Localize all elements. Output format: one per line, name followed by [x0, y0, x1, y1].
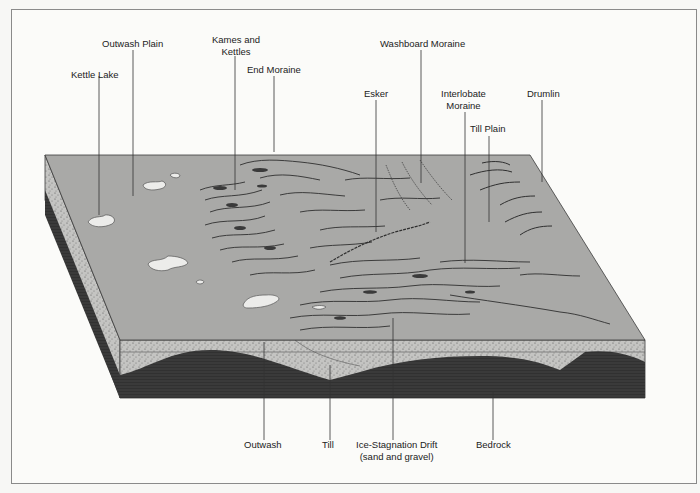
label-drift-line2: (sand and gravel): [356, 451, 437, 463]
label-outwash: Outwash: [244, 439, 282, 451]
label-kames-line1: Kames and: [212, 34, 260, 46]
label-till-plain: Till Plain: [470, 123, 506, 135]
front-face: [120, 340, 645, 398]
label-esker: Esker: [364, 88, 388, 100]
label-drumlin: Drumlin: [527, 88, 560, 100]
label-outwash-plain: Outwash Plain: [102, 38, 163, 50]
label-kames-line2: Kettles: [212, 46, 260, 58]
label-bedrock: Bedrock: [476, 439, 511, 451]
label-drift-line1: Ice-Stagnation Drift: [356, 439, 437, 451]
label-kettle-lake: Kettle Lake: [71, 69, 119, 81]
label-till: Till: [322, 439, 334, 451]
label-end-moraine: End Moraine: [247, 64, 301, 76]
top-surface: [45, 155, 645, 340]
label-interlobate-line2: Moraine: [441, 100, 486, 112]
label-ice-stagnation-drift: Ice-Stagnation Drift (sand and gravel): [356, 439, 437, 463]
label-washboard-moraine: Washboard Moraine: [380, 38, 465, 50]
label-kames-and-kettles: Kames and Kettles: [212, 34, 260, 58]
label-interlobate-line1: Interlobate: [441, 88, 486, 100]
label-interlobate-moraine: Interlobate Moraine: [441, 88, 486, 112]
